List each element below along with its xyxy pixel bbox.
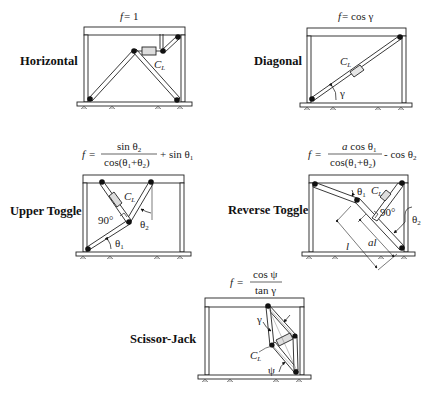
svg-text:=: =: [237, 276, 243, 288]
svg-text:cos(θ1+θ2): cos(θ1+θ2): [330, 156, 376, 170]
angle-arc-gamma: [332, 86, 336, 100]
panel-horizontal: Horizontal f= 1 C: [20, 10, 192, 109]
svg-text:=: =: [315, 148, 321, 160]
svg-text:tan γ: tan γ: [255, 284, 276, 296]
angle-arc-theta2: [141, 209, 151, 213]
angle-theta2-label: θ2: [412, 213, 421, 227]
ground-hatch: [80, 256, 183, 259]
equation-upper-toggle: f = sin θ2 cos(θ1+θ2) + sin θ1: [82, 140, 194, 170]
length-l-label: l: [346, 240, 349, 252]
angle-gamma-label: γ: [339, 87, 345, 99]
panel-label-diagonal: Diagonal: [254, 54, 302, 68]
panel-diagonal: Diagonal f= cos γ CL γ: [254, 10, 412, 110]
damper-label: CL: [124, 190, 135, 204]
diagonal-brace: [311, 36, 401, 101]
equation-scissor-jack: f = cos ψ tan γ: [230, 268, 282, 296]
damper-horizontal: [135, 34, 179, 55]
svg-text:a cos θ1: a cos θ1: [342, 140, 377, 154]
damper-label: CL: [340, 55, 351, 69]
panel-scissor-jack: Scissor-Jack f = cos ψ tan γ: [130, 268, 311, 382]
scissor-jack-brace: [266, 305, 298, 372]
angle-theta1-label: θ1: [357, 185, 366, 199]
svg-text:cos ψ: cos ψ: [253, 268, 277, 280]
panel-label-scissor-jack: Scissor-Jack: [130, 332, 196, 346]
equation-diagonal: f= cos γ: [338, 10, 373, 22]
svg-text:- cos θ2: - cos θ2: [384, 148, 417, 162]
damper-configurations-diagram: Horizontal f= 1 C: [0, 0, 428, 393]
svg-text:sin θ2: sin θ2: [117, 140, 142, 154]
equation-horizontal: f= 1: [120, 10, 139, 22]
angle-arc-theta1: [108, 240, 111, 249]
right-angle-label: 90°: [98, 214, 113, 226]
length-al-label: al: [368, 236, 377, 248]
pin-joint: [87, 34, 181, 103]
svg-text:f: f: [230, 276, 235, 288]
damper-leader-line: [259, 346, 272, 352]
angle-theta2-label: θ2: [140, 218, 149, 232]
right-angle-label: 90°: [380, 206, 395, 218]
angle-arc-theta2: [394, 207, 412, 233]
panel-reverse-toggle: Reverse Toggle f = a cos θ1 cos(θ1+θ2) -…: [228, 140, 421, 270]
panel-upper-toggle: Upper Toggle f = sin θ2 cos(θ1+θ2) + sin…: [10, 140, 194, 259]
panel-label-horizontal: Horizontal: [20, 54, 78, 68]
damper-label: CL: [154, 58, 165, 72]
angle-psi-label: ψ: [268, 364, 275, 376]
damper-label: CL: [250, 349, 261, 363]
panel-label-reverse-toggle: Reverse Toggle: [228, 203, 309, 217]
svg-text:=: =: [89, 148, 95, 160]
svg-text:f: f: [82, 148, 87, 160]
ground-hatch: [202, 379, 302, 382]
svg-text:cos(θ1+θ2): cos(θ1+θ2): [104, 156, 150, 170]
damper-label: CL: [371, 184, 382, 198]
chevron-brace: [89, 49, 180, 101]
angle-arc-psi: [279, 362, 285, 372]
equation-reverse-toggle: f = a cos θ1 cos(θ1+θ2) - cos θ2: [308, 140, 417, 170]
svg-text:+ sin θ1: + sin θ1: [160, 148, 194, 162]
angle-arc-theta1: [352, 190, 353, 196]
angle-arc-gamma-2: [284, 315, 290, 322]
panel-label-upper-toggle: Upper Toggle: [10, 204, 82, 218]
angle-theta1-label: θ1: [115, 237, 124, 251]
angle-gamma-label: γ: [256, 313, 262, 325]
svg-text:f: f: [308, 148, 313, 160]
